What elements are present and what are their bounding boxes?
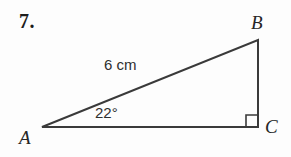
side-length-label-ab: 6 cm	[104, 57, 137, 72]
vertex-label-b: B	[251, 13, 263, 32]
triangle-drawing	[0, 0, 291, 157]
right-angle-marker-icon	[246, 115, 258, 127]
problem-number: 7.	[19, 11, 35, 31]
triangle-shape	[42, 40, 258, 127]
vertex-label-a: A	[19, 128, 31, 147]
angle-label-a: 22°	[95, 105, 118, 120]
geometry-figure: 7. A B C 6 cm 22°	[0, 0, 291, 157]
vertex-label-c: C	[265, 117, 278, 136]
